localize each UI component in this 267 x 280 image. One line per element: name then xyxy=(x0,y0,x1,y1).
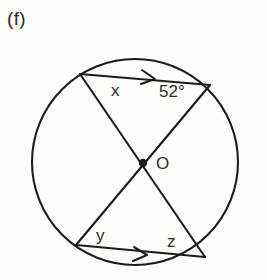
parallel-arrow-top-icon xyxy=(141,70,155,84)
label-angle-52: 52° xyxy=(159,82,185,101)
geometry-diagram: O x 52° y z xyxy=(0,0,267,280)
parallel-arrow-bottom-icon xyxy=(133,247,147,261)
label-angle-z: z xyxy=(167,232,176,251)
label-angle-y: y xyxy=(96,226,105,245)
center-point-dot xyxy=(139,159,147,167)
label-angle-x: x xyxy=(111,81,120,100)
label-center-o: O xyxy=(156,154,169,173)
figure-canvas: (f) O x 52° y z xyxy=(0,0,267,280)
